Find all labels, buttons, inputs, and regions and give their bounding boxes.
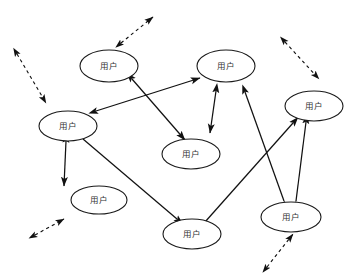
node-label: 用户: [90, 195, 109, 205]
node-user-8[interactable]: 用户: [163, 219, 221, 249]
node-label: 用户: [182, 149, 201, 159]
node-label: 用户: [183, 229, 202, 239]
node-label: 用户: [282, 212, 301, 222]
node-label: 用户: [100, 61, 119, 71]
node-user-2[interactable]: 用户: [197, 50, 255, 82]
diagram-canvas: 用户 用户 用户 用户 用户 用户: [0, 0, 357, 278]
node-user-5[interactable]: 用户: [162, 139, 220, 169]
node-user-3[interactable]: 用户: [39, 111, 97, 141]
node-label: 用户: [217, 61, 236, 71]
node-user-6[interactable]: 用户: [71, 186, 127, 214]
node-user-4[interactable]: 用户: [285, 91, 343, 121]
node-user-7[interactable]: 用户: [261, 202, 321, 232]
node-label: 用户: [305, 101, 324, 111]
node-user-1[interactable]: 用户: [80, 50, 138, 82]
node-label: 用户: [59, 121, 78, 131]
user-network-diagram: 用户 用户 用户 用户 用户 用户: [0, 0, 357, 278]
